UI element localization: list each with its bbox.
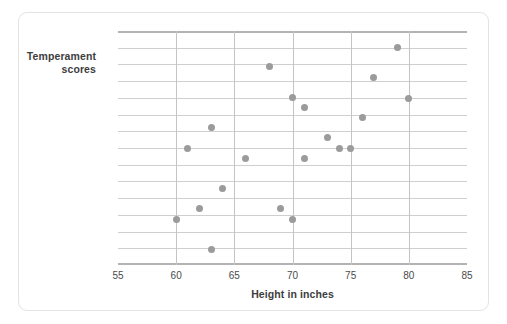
- data-point: [196, 205, 203, 212]
- y-axis-title-line-1: Temperament: [18, 50, 96, 63]
- data-point: [219, 185, 226, 192]
- data-point: [347, 145, 354, 152]
- data-point: [405, 95, 412, 102]
- data-point: [173, 216, 180, 223]
- data-point: [289, 216, 296, 223]
- x-axis-tick-label: 75: [331, 270, 371, 281]
- y-axis-title: Temperament scores: [18, 50, 96, 76]
- plot-area: [118, 31, 467, 265]
- scatter-chart: Temperament scores Height in inches 2530…: [0, 0, 507, 324]
- gridline-vertical: [176, 31, 177, 265]
- x-axis-tick-label: 60: [156, 270, 196, 281]
- data-point: [266, 63, 273, 70]
- data-point: [336, 145, 343, 152]
- data-point: [242, 155, 249, 162]
- x-axis-tick-label: 85: [447, 270, 487, 281]
- gridline-vertical: [293, 31, 294, 265]
- data-point: [277, 205, 284, 212]
- x-axis-tick-label: 55: [98, 270, 138, 281]
- data-point: [359, 114, 366, 121]
- x-axis-tick-label: 65: [214, 270, 254, 281]
- data-point: [301, 155, 308, 162]
- x-axis-tick-label: 80: [389, 270, 429, 281]
- gridline-vertical: [409, 31, 410, 265]
- data-point: [301, 104, 308, 111]
- data-point: [208, 246, 215, 253]
- y-axis-title-line-2: scores: [18, 63, 96, 76]
- data-point: [324, 134, 331, 141]
- gridline-vertical: [234, 31, 235, 265]
- x-axis-title: Height in inches: [118, 288, 467, 300]
- data-point: [394, 44, 401, 51]
- data-point: [184, 145, 191, 152]
- data-point: [289, 94, 296, 101]
- x-axis-tick-label: 70: [273, 270, 313, 281]
